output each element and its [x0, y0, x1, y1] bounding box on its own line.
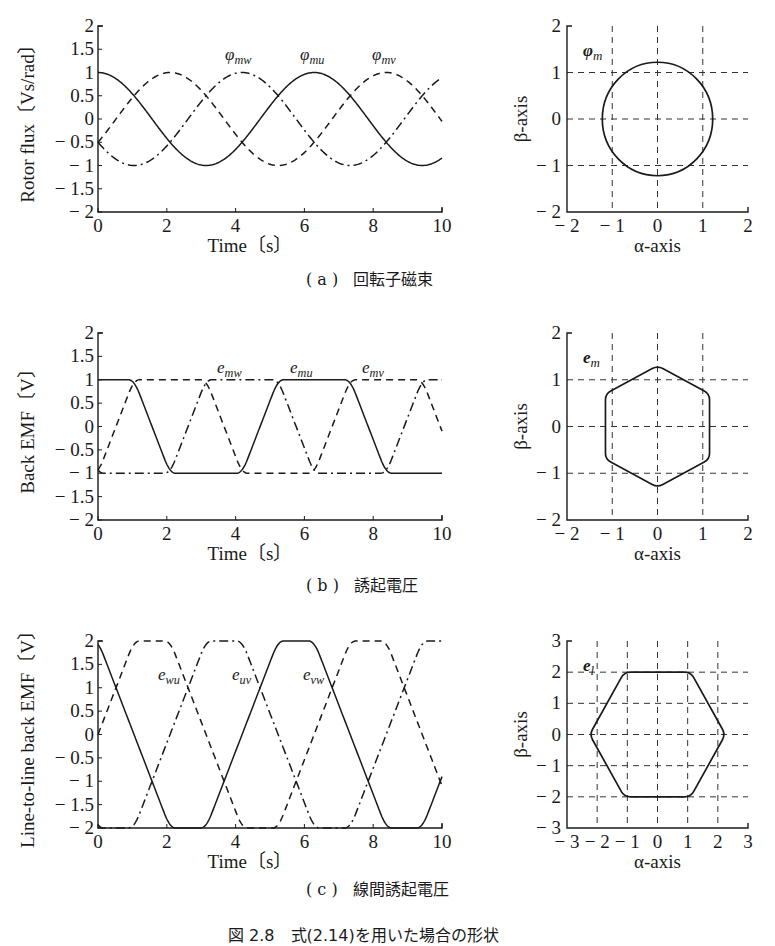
x-tick-label: 0 [653, 831, 663, 852]
x-axis-label: Time〔s〕 [208, 235, 293, 256]
x-tick-label: 10 [433, 523, 452, 544]
vector-label: el [583, 656, 595, 678]
panel-c-caption-letter: ( c ) [306, 880, 338, 899]
y-tick-label: − 1 [536, 462, 561, 483]
y-tick-label: 1.5 [70, 653, 94, 674]
time-plot-a: 21.510.50− 0.5− 1− 1.5− 20246810Time〔s〕R… [17, 15, 452, 256]
curve-label: φmw [225, 45, 252, 67]
x-tick-label: 6 [300, 215, 310, 236]
x-axis-label: Time〔s〕 [208, 851, 293, 872]
y-tick-label: 1 [552, 369, 562, 390]
x-tick-label: 1 [698, 215, 708, 236]
y-axis-label: Line-to-line back EMF〔V〕 [17, 621, 38, 848]
y-tick-label: 1 [85, 369, 95, 390]
vector-plot-a: 210− 1− 2− 2− 1012α-axisβ-axisφm [510, 15, 753, 256]
panel-a-caption-text: 回転子磁束 [353, 270, 433, 289]
y-tick-label: − 1 [536, 755, 561, 776]
curve-label: evw [303, 665, 325, 687]
y-tick-label: − 1.5 [55, 486, 94, 507]
x-tick-label: 8 [368, 215, 378, 236]
y-tick-label: − 0.5 [55, 747, 94, 768]
curve-e-wu [98, 641, 442, 828]
curve-e-mv [98, 380, 442, 474]
x-tick-label: − 2 [555, 215, 580, 236]
x-tick-label: 6 [300, 831, 310, 852]
y-tick-label: 2 [552, 15, 562, 36]
curve-label: emw [217, 358, 242, 380]
y-axis-label: Back EMF〔V〕 [17, 359, 38, 494]
x-tick-label: − 3 [555, 831, 580, 852]
x-tick-label: 8 [368, 831, 378, 852]
x-tick-label: − 2 [585, 831, 610, 852]
curve-label: emv [362, 358, 384, 380]
x-tick-label: 2 [713, 831, 723, 852]
panel-c-caption-text: 線間誘起電圧 [353, 880, 449, 899]
vector-plot-b: 210− 1− 2− 2− 1012α-axisβ-axisem [510, 322, 753, 564]
panel-b-caption: ( b ) 誘起電圧 [306, 572, 418, 596]
y-axis-label: β-axis [510, 711, 531, 758]
curve-label: emu [290, 358, 313, 380]
x-tick-label: 0 [653, 215, 663, 236]
x-tick-label: 0 [93, 215, 103, 236]
x-tick-label: − 1 [600, 523, 625, 544]
x-tick-label: 0 [93, 523, 103, 544]
panel-a-caption: ( a ) 回転子磁束 [306, 266, 433, 290]
y-axis-label: β-axis [510, 96, 531, 143]
x-tick-label: 2 [743, 523, 753, 544]
y-tick-label: 3 [552, 630, 562, 651]
panel-c-caption: ( c ) 線間誘起電圧 [306, 876, 449, 900]
time-plot-b: 21.510.50− 0.5− 1− 1.5− 20246810Time〔s〕B… [17, 322, 452, 564]
y-tick-label: 0 [552, 416, 562, 437]
x-tick-label: 0 [653, 523, 663, 544]
curve-phi-mw [98, 73, 442, 166]
y-tick-label: 0 [85, 416, 95, 437]
y-tick-label: − 1 [69, 155, 94, 176]
curve-label: φmv [372, 45, 396, 67]
vector-plot-c: 3210− 1− 2− 3− 3− 2− 10123α-axisβ-axisel [510, 630, 753, 872]
x-tick-label: 2 [162, 831, 172, 852]
x-tick-label: − 2 [555, 523, 580, 544]
y-tick-label: 2 [552, 322, 562, 343]
y-tick-label: − 1.5 [55, 794, 94, 815]
y-tick-label: 2 [85, 630, 95, 651]
x-tick-label: − 1 [615, 831, 640, 852]
x-axis-label: α-axis [634, 851, 681, 872]
vector-label: em [583, 348, 600, 370]
x-tick-label: 0 [93, 831, 103, 852]
x-tick-label: 10 [433, 831, 452, 852]
y-tick-label: 0.5 [70, 700, 94, 721]
y-tick-label: 1.5 [70, 38, 94, 59]
y-tick-label: 0 [552, 108, 562, 129]
y-tick-label: 1 [552, 692, 562, 713]
y-tick-label: 0.5 [70, 85, 94, 106]
x-tick-label: 4 [231, 215, 241, 236]
y-tick-label: − 2 [69, 817, 94, 838]
x-tick-label: 2 [162, 215, 172, 236]
x-tick-label: 1 [698, 523, 708, 544]
y-tick-label: 2 [552, 661, 562, 682]
y-tick-label: 0 [85, 108, 95, 129]
figure-caption: 図 2.8 式(2.14)を用いた場合の形状 [228, 922, 499, 946]
x-tick-label: 6 [300, 523, 310, 544]
y-tick-label: 2 [85, 15, 95, 36]
y-axis-label: Rotor flux〔Vs/rad〕 [17, 35, 38, 202]
y-tick-label: − 1 [69, 770, 94, 791]
y-tick-label: − 2 [69, 201, 94, 222]
panel-a-caption-letter: ( a ) [306, 270, 338, 289]
y-tick-label: − 2 [69, 509, 94, 530]
y-tick-label: − 1.5 [55, 178, 94, 199]
curve-e-vw [98, 641, 442, 828]
y-tick-label: 1 [85, 677, 95, 698]
x-tick-label: 2 [743, 215, 753, 236]
y-tick-label: 0 [85, 724, 95, 745]
curve-label: euv [232, 665, 252, 687]
x-tick-label: 8 [368, 523, 378, 544]
axes-frame [98, 333, 442, 520]
x-axis-label: α-axis [634, 543, 681, 564]
curve-label: φmu [300, 45, 324, 67]
x-tick-label: 4 [231, 523, 241, 544]
x-tick-label: 3 [743, 831, 753, 852]
x-tick-label: 2 [162, 523, 172, 544]
y-tick-label: − 2 [536, 786, 561, 807]
